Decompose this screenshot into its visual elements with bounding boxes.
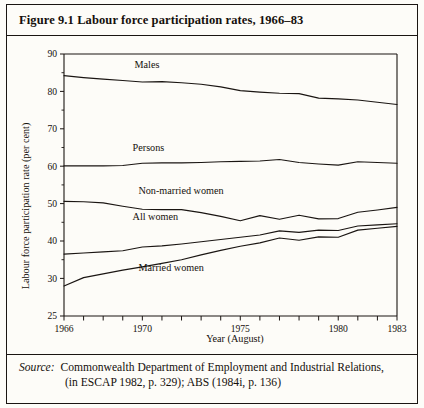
series-label-males: Males xyxy=(135,59,160,70)
source-text-2: (in ESCAP 1982, p. 329); ABS (1984i, p. … xyxy=(19,375,411,390)
series-married-women xyxy=(64,226,397,286)
series-label-non-married-women: Non-married women xyxy=(138,185,223,196)
y-tick-label: 40 xyxy=(47,235,57,246)
series-all-women xyxy=(64,224,397,254)
y-tick-label: 50 xyxy=(47,198,57,209)
x-tick-label: 1980 xyxy=(329,323,348,334)
y-tick-label: 25 xyxy=(47,310,57,321)
line-chart: 2530405060708090 19661970197519801983 Ma… xyxy=(7,36,417,354)
series-non-married-women xyxy=(64,201,397,220)
figure-title: Figure 9.1 Labour force participation ra… xyxy=(19,13,303,28)
y-tick-label: 60 xyxy=(47,161,57,172)
source-label: Source: xyxy=(19,361,55,374)
y-tick-label: 80 xyxy=(47,86,57,97)
y-axis-title: Labour force participation rate (per cen… xyxy=(20,123,32,290)
chart-plot-area: 2530405060708090 19661970197519801983 Ma… xyxy=(7,36,417,354)
series-group xyxy=(64,76,397,286)
series-label-all-women: All women xyxy=(133,211,179,222)
y-tick-label: 90 xyxy=(47,48,57,59)
source-divider xyxy=(7,354,417,355)
figure-card: Figure 9.1 Labour force participation ra… xyxy=(6,4,418,404)
x-tick-label: 1970 xyxy=(133,323,152,334)
x-tick-label: 1983 xyxy=(387,323,406,334)
series-label-persons: Persons xyxy=(133,142,165,153)
series-label-married-women: Married women xyxy=(138,262,203,273)
y-tick-label: 30 xyxy=(47,273,57,284)
source-note: Source: Commonwealth Department of Emplo… xyxy=(19,360,411,390)
x-axis: 19661970197519801983 xyxy=(54,316,406,334)
x-tick-label: 1966 xyxy=(54,323,73,334)
series-persons xyxy=(64,159,397,165)
series-males xyxy=(64,76,397,105)
source-line-1: Source: Commonwealth Department of Emplo… xyxy=(19,360,411,375)
y-tick-label: 70 xyxy=(47,123,57,134)
source-text-1: Commonwealth Department of Employment an… xyxy=(60,361,384,374)
x-axis-title: Year (August) xyxy=(206,333,264,345)
